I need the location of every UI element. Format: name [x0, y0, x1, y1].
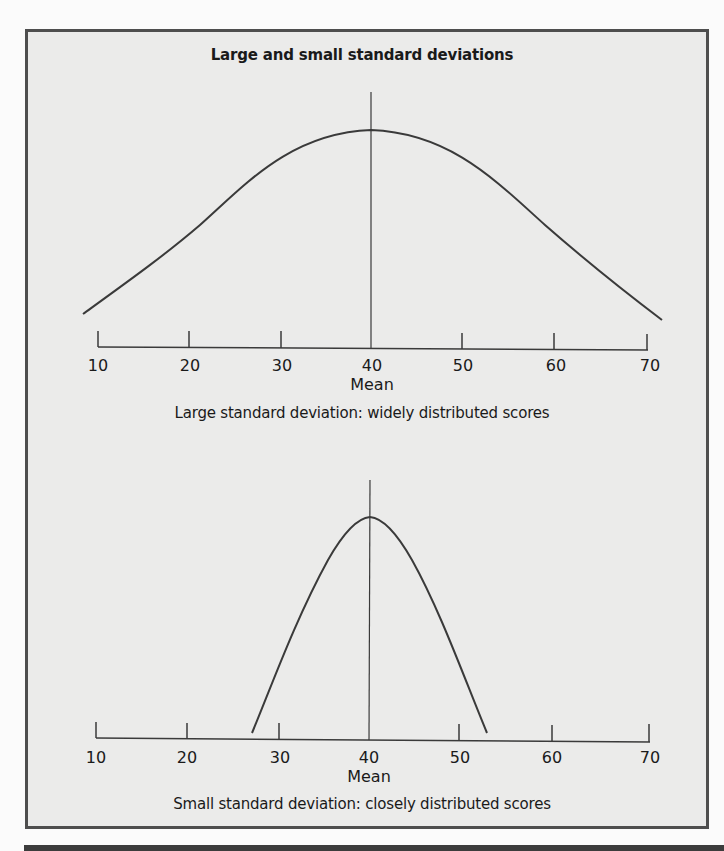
- mean-axis-label: Mean: [347, 767, 391, 786]
- tick-label: 10: [86, 748, 106, 767]
- tick-label: 50: [450, 748, 470, 767]
- small-sd-chart: [96, 480, 650, 742]
- large-sd-curve: [83, 130, 662, 320]
- tick-label: 60: [542, 748, 562, 767]
- tick-label: 50: [453, 356, 473, 375]
- tick-label: 70: [640, 356, 660, 375]
- tick-label: 60: [546, 356, 566, 375]
- mean-line: [369, 480, 370, 740]
- x-axis: [96, 722, 650, 742]
- tick-label: 20: [177, 748, 197, 767]
- tick-label: 10: [88, 356, 108, 375]
- large-sd-chart: [83, 92, 662, 350]
- tick-label: 40: [359, 748, 379, 767]
- small-sd-caption: Small standard deviation: closely distri…: [0, 795, 724, 813]
- mean-axis-label: Mean: [350, 375, 394, 394]
- tick-label: 20: [180, 356, 200, 375]
- chart-graphics: [0, 0, 724, 851]
- tick-label: 40: [362, 356, 382, 375]
- large-sd-caption: Large standard deviation: widely distrib…: [0, 404, 724, 422]
- tick-label: 30: [272, 356, 292, 375]
- tick-label: 70: [640, 748, 660, 767]
- tick-label: 30: [270, 748, 290, 767]
- x-axis: [98, 331, 648, 350]
